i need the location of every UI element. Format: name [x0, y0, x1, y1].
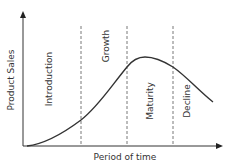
stage-label-decline: Decline	[182, 84, 192, 118]
stage-label-growth: Growth	[101, 30, 111, 63]
product-life-cycle-chart: Product Sales Period of time Introductio…	[0, 0, 229, 165]
y-axis-label: Product Sales	[6, 49, 16, 110]
y-axis-arrow-icon	[20, 11, 26, 18]
x-axis-label: Period of time	[94, 152, 157, 162]
stage-label-maturity: Maturity	[145, 82, 155, 120]
stage-label-introduction: Introduction	[44, 52, 54, 107]
x-axis-arrow-icon	[216, 143, 223, 149]
